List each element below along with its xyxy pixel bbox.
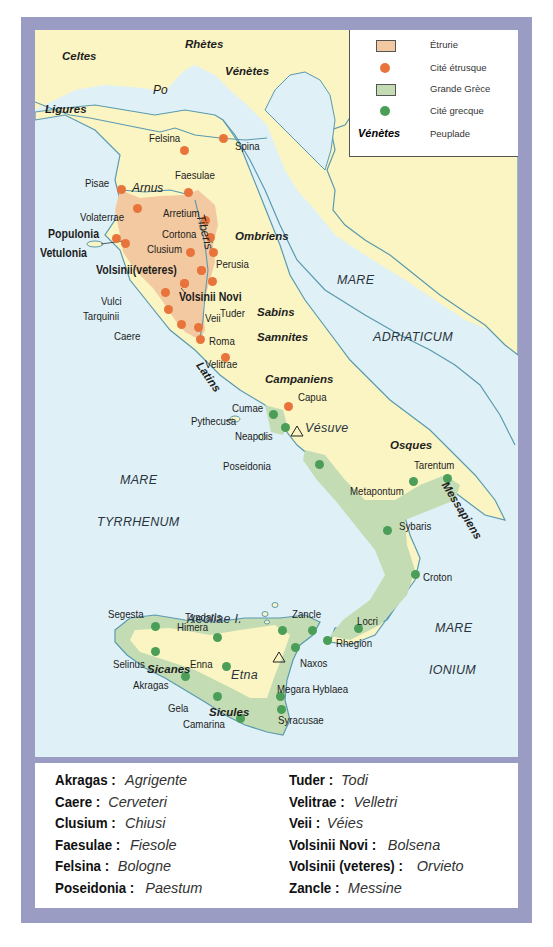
city-label-locri: Locri [357, 616, 378, 627]
city-label-roma: Roma [209, 336, 235, 347]
glossary-row: Volsinii (veteres) :Orvieto [289, 858, 464, 880]
greek-city-dot-croton [411, 570, 420, 579]
city-label-vetulonia: Vetulonia [40, 247, 87, 259]
glossary-row: Akragas :Agrigente [55, 772, 202, 794]
people-label-sicanes: Sicanes [147, 664, 190, 676]
greek-city-dot-tarentum [409, 477, 418, 486]
modern-name: Messine [348, 880, 402, 896]
city-label-segesta: Segesta [108, 609, 144, 620]
map-area: FelsinaSpinaFaesulaePisaeArretiumVolater… [35, 30, 518, 757]
city-label-gela: Gela [168, 703, 188, 714]
city-label-caere: Caere [114, 331, 140, 342]
city-label-felsina: Felsina [149, 133, 180, 144]
modern-name: Chiusi [125, 815, 165, 831]
etruria-swatch-icon [376, 40, 396, 52]
greek-city-dot-syracusae [277, 705, 286, 714]
etruscan-city-dot-volsinii-veteres [197, 266, 206, 275]
greek-city-dot-tyndaris [278, 626, 287, 635]
greek-city-dot-segesta [151, 622, 160, 631]
ancient-name: Felsina : [55, 858, 109, 874]
greek-city-dot-poseidonia [315, 460, 324, 469]
etruscan-city-dot-pisae [117, 185, 126, 194]
glossary-row: Volsinii Novi :Bolsena [289, 837, 464, 859]
people-label-sicules: Sicules [209, 707, 249, 719]
legend: Étrurie Cité étrusque Grande Grèce Cité … [349, 30, 518, 157]
sea-label-adriaticum: ADRIATICUM [373, 331, 453, 344]
greek-city-dot-icon [380, 106, 390, 116]
etruscan-city-dot-volsinii-novi [180, 279, 189, 288]
etruscan-city-dot-vetulonia [121, 239, 130, 248]
glossary-row: Velitrae :Velletri [289, 794, 464, 816]
city-label-neapolis: Neapolis [235, 431, 273, 442]
greek-city-dot-gela [213, 692, 222, 701]
city-label-volsinii-veteres: Volsinii(veteres) [96, 264, 177, 276]
city-label-pisae: Pisae [85, 178, 109, 189]
legend-item-people: Vénètes Peuplade [350, 125, 518, 143]
city-label-tarentum: Tarentum [414, 460, 454, 471]
sea-label-mare: MARE [337, 274, 374, 287]
legend-item-etruscan-city: Cité étrusque [350, 59, 518, 77]
city-label-spina: Spina [235, 141, 260, 152]
etruscan-city-dot-felsina [180, 146, 189, 155]
magna-graecia-swatch-icon [376, 84, 396, 96]
people-label-celtes: Celtes [62, 51, 97, 63]
modern-name: Orvieto [417, 858, 464, 874]
greek-city-dot-neapolis [281, 423, 290, 432]
ancient-name: Poseidonia : [55, 880, 134, 896]
greek-city-dot-sybaris [383, 526, 392, 535]
sea-label-mare: MARE [435, 622, 472, 635]
city-label-volaterrae: Volaterrae [80, 212, 124, 223]
etruscan-city-dot-tarquinii [164, 305, 173, 314]
greek-city-dot-enna [222, 662, 231, 671]
city-label-syracusae: Syracusae [278, 715, 324, 726]
city-label-tarquinii: Tarquinii [83, 311, 119, 322]
city-label-volsinii-novi: Volsinii Novi [179, 291, 242, 303]
city-label-pythecusa: Pythecusa [191, 416, 236, 427]
city-label-veii: Veii [205, 313, 221, 324]
modern-name: Agrigente [125, 772, 187, 788]
etruscan-city-dot-faesulae [184, 188, 193, 197]
greek-city-dot-naxos [291, 643, 300, 652]
city-label-zancle: Zancle [292, 609, 321, 620]
ancient-name: Volsinii Novi : [289, 837, 376, 853]
city-label-selinus: Selinus [113, 659, 145, 670]
ancient-name: Caere : [55, 794, 100, 810]
ancient-name: Faesulae : [55, 837, 120, 853]
sea-label-etna: Etna [231, 669, 258, 682]
modern-name: Velletri [353, 794, 397, 810]
sea-label-v-suve: Vésuve [305, 422, 349, 435]
etruscan-city-dot-vulci [161, 288, 170, 297]
people-label-ligures: Ligures [45, 104, 87, 116]
ancient-name: Akragas : [55, 772, 116, 788]
greek-city-dot-cumae [269, 410, 278, 419]
glossary-box: Akragas :AgrigenteCaere :CerveteriClusiu… [35, 763, 518, 908]
glossary-row: Faesulae :Fiesole [55, 837, 202, 859]
people-label-v-n-tes: Vénètes [225, 66, 269, 78]
etruscan-city-dot-roma [196, 335, 205, 344]
city-label-croton: Croton [423, 572, 452, 583]
etruscan-city-dot-caere [177, 320, 186, 329]
city-label-populonia: Populonia [48, 228, 99, 240]
city-label-cortona: Cortona [162, 229, 196, 240]
etruscan-city-dot-clusium [186, 248, 195, 257]
modern-name: Bologne [118, 858, 171, 874]
glossary-row: Poseidonia :Paestum [55, 880, 202, 902]
city-label-clusium: Clusium [147, 244, 182, 255]
etruscan-city-dot-veii [194, 323, 203, 332]
river-label-arnus: Arnus [132, 182, 163, 194]
glossary-column-left: Akragas :AgrigenteCaere :CerveteriClusiu… [55, 772, 202, 901]
etruscan-city-dot-capua [284, 402, 293, 411]
etruscan-city-dot-tuder [208, 277, 217, 286]
glossary-row: Clusium :Chiusi [55, 815, 202, 837]
etruscan-city-dot-icon [380, 63, 390, 73]
river-label-po: Po [153, 84, 168, 96]
etruscan-city-dot-spina [219, 134, 228, 143]
city-label-sybaris: Sybaris [399, 521, 431, 532]
people-label-rh-tes: Rhètes [185, 39, 223, 51]
sea-label-tyrrhenum: TYRRHENUM [97, 516, 180, 529]
greek-city-dot-selinus [151, 647, 160, 656]
ancient-name: Zancle : [289, 880, 339, 896]
glossary-row: Veii :Véies [289, 815, 464, 837]
city-label-poseidonia: Poseidonia [223, 461, 271, 472]
ancient-name: Volsinii (veteres) : [289, 858, 403, 874]
